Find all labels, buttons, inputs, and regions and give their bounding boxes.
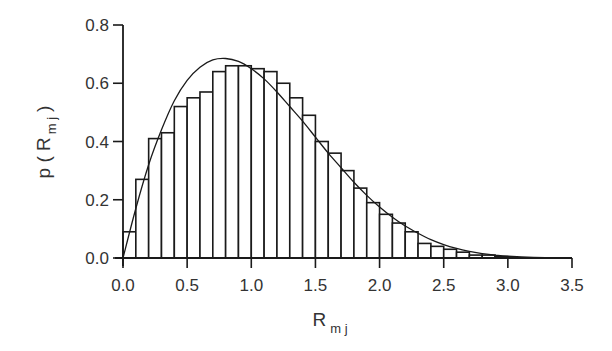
histogram-bar xyxy=(161,133,174,258)
histogram-bar xyxy=(213,72,226,258)
histogram-bar xyxy=(251,69,264,258)
x-tick-label: 3.5 xyxy=(560,276,584,295)
x-axis-label: Rm j xyxy=(312,309,347,336)
histogram-bar xyxy=(328,153,341,258)
histogram-bar xyxy=(303,115,316,258)
x-tick-label: 1.5 xyxy=(304,276,328,295)
x-tick-label: 1.0 xyxy=(239,276,263,295)
histogram-bar xyxy=(149,139,162,258)
histogram-bar xyxy=(136,179,149,258)
histogram-bar xyxy=(123,232,136,258)
histogram-bar xyxy=(264,72,277,258)
histogram-chart: 0.00.20.40.60.80.00.51.01.52.02.53.03.5 … xyxy=(0,0,612,351)
y-tick-label: 0.0 xyxy=(85,249,109,268)
y-axis-label: p ( Rm j) xyxy=(33,106,59,179)
histogram-bar xyxy=(380,214,393,258)
histogram-bar xyxy=(341,171,354,258)
x-tick-label: 3.0 xyxy=(496,276,520,295)
histogram-bar xyxy=(238,66,251,258)
histogram-bar xyxy=(367,203,380,258)
histogram-bar xyxy=(392,223,405,258)
x-tick-label: 2.5 xyxy=(432,276,456,295)
plot-area xyxy=(123,58,572,258)
histogram-bar xyxy=(174,107,187,258)
y-tick-label: 0.8 xyxy=(85,16,109,35)
histogram-bar xyxy=(277,83,290,258)
x-tick-label: 0.5 xyxy=(175,276,199,295)
histogram-bar xyxy=(200,92,213,258)
histogram-bar xyxy=(290,98,303,258)
histogram-bar xyxy=(315,142,328,259)
histogram-bar xyxy=(405,232,418,258)
histogram-bar xyxy=(226,66,239,258)
histogram-bar xyxy=(431,246,444,258)
y-tick-label: 0.2 xyxy=(85,191,109,210)
histogram-bar xyxy=(354,188,367,258)
x-tick-label: 0.0 xyxy=(111,276,135,295)
x-tick-label: 2.0 xyxy=(368,276,392,295)
y-tick-label: 0.4 xyxy=(85,133,109,152)
y-tick-label: 0.6 xyxy=(85,74,109,93)
histogram-bar xyxy=(444,249,457,258)
histogram-bar xyxy=(418,243,431,258)
histogram-bar xyxy=(187,98,200,258)
